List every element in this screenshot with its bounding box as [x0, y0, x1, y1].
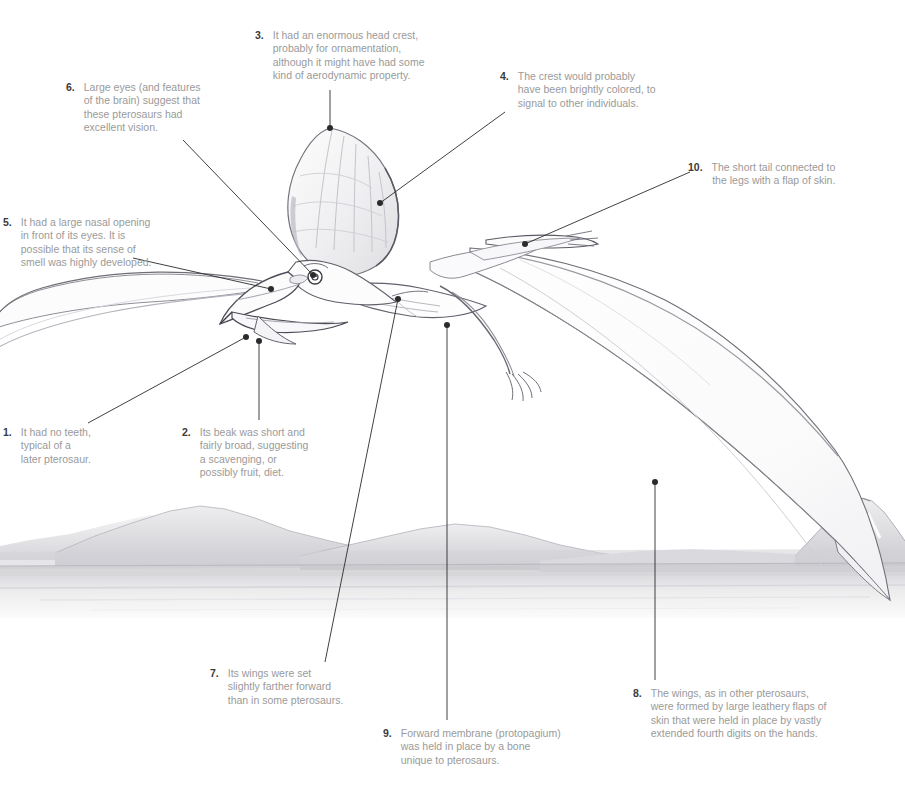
illustration-page: 1.It had no teeth,typical of alater pter… [0, 0, 905, 807]
callout-10: 10.The short tail connected tothe legs w… [688, 161, 900, 188]
callout-text-7: Its wings were setslightly farther forwa… [228, 667, 344, 707]
callout-3: 3.It had an enormous head crest,probably… [255, 29, 470, 83]
callout-5: 5.It had a large nasal openingin front o… [3, 216, 155, 270]
callout-gap [392, 727, 401, 767]
callout-number-2: 2. [182, 426, 191, 480]
callout-gap [264, 29, 273, 83]
callout-gap [191, 426, 200, 480]
callout-number-3: 3. [255, 29, 264, 83]
callout-text-2: Its beak was short andfairly broad, sugg… [200, 426, 309, 480]
callout-4: 4.The crest would probablyhave been brig… [500, 70, 680, 110]
leader-dot-5 [268, 286, 274, 292]
callout-text-10: The short tail connected tothe legs with… [712, 161, 836, 188]
callout-9: 9.Forward membrane (protopagium)was held… [383, 727, 593, 767]
leader-dot-4 [377, 200, 383, 206]
leader-dot-3 [327, 125, 333, 131]
callout-gap [12, 216, 21, 270]
callout-2: 2.Its beak was short andfairly broad, su… [182, 426, 332, 480]
leader-dot-7 [395, 296, 401, 302]
landscape-background [0, 498, 905, 618]
callout-gap [75, 81, 84, 135]
callout-number-6: 6. [66, 81, 75, 135]
leader-dot-9 [444, 322, 450, 328]
callout-number-9: 9. [383, 727, 392, 767]
leader-line-4 [380, 112, 505, 203]
callout-text-8: The wings, as in other pterosaurs,were f… [651, 687, 827, 741]
callout-number-8: 8. [633, 687, 642, 741]
leader-dot-10 [522, 241, 528, 247]
leader-line-1 [88, 337, 246, 423]
callout-text-5: It had a large nasal openingin front of … [21, 216, 152, 270]
foot-toes [506, 372, 541, 401]
callout-text-6: Large eyes (and featuresof the brain) su… [84, 81, 201, 135]
callout-number-7: 7. [210, 667, 219, 707]
callout-gap [219, 667, 228, 707]
callout-1: 1.It had no teeth,typical of alater pter… [3, 426, 153, 466]
leader-line-10 [525, 172, 690, 244]
callout-number-5: 5. [3, 216, 12, 270]
callout-gap [509, 70, 518, 110]
callout-6: 6.Large eyes (and featuresof the brain) … [66, 81, 226, 135]
callout-gap [642, 687, 651, 741]
callout-7: 7.Its wings were setslightly farther for… [210, 667, 360, 707]
leader-dot-1 [243, 334, 249, 340]
callout-text-4: The crest would probablyhave been bright… [518, 70, 656, 110]
callout-number-4: 4. [500, 70, 509, 110]
callout-text-1: It had no teeth,typical of alater pteros… [21, 426, 91, 466]
leader-dot-2 [256, 338, 262, 344]
leader-dot-6 [310, 272, 316, 278]
callout-gap [703, 161, 712, 188]
callout-8: 8.The wings, as in other pterosaurs,were… [633, 687, 873, 741]
callout-number-10: 10. [688, 161, 703, 188]
callout-text-3: It had an enormous head crest,probably f… [273, 29, 425, 83]
leader-dot-8 [652, 479, 658, 485]
callout-number-1: 1. [3, 426, 12, 466]
head [288, 260, 396, 304]
callout-text-9: Forward membrane (protopagium)was held i… [401, 727, 561, 767]
callout-gap [12, 426, 21, 466]
